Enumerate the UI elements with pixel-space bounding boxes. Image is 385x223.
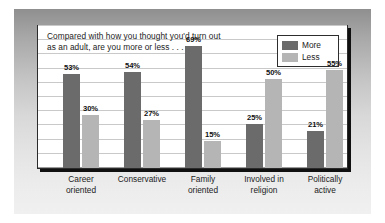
category-label: Politically active xyxy=(308,174,343,195)
bar-value-label: 54% xyxy=(125,61,140,70)
bar-less: 27% xyxy=(143,120,160,168)
bar-group: 25%50% xyxy=(246,26,282,168)
category-axis-labels: Career orientedConservativeFamily orient… xyxy=(37,174,351,204)
bars-group: 53%30%54%27%69%15%25%50%21%55% xyxy=(38,26,347,168)
bar-less: 50% xyxy=(265,79,282,168)
bar-group: 53%30% xyxy=(63,26,99,168)
chart-panel: Compared with how you thought you'd turn… xyxy=(37,25,348,169)
bar-more: 25% xyxy=(246,124,263,168)
bar-value-label: 30% xyxy=(83,104,98,113)
bar-value-label: 25% xyxy=(247,113,262,122)
bar-value-label: 53% xyxy=(64,63,79,72)
bar-group: 54%27% xyxy=(124,26,160,168)
bar-value-label: 21% xyxy=(308,120,323,129)
category-label: Career oriented xyxy=(66,174,96,195)
category-label: Family oriented xyxy=(188,174,218,195)
category-label: Conservative xyxy=(118,174,166,185)
bar-group: 21%55% xyxy=(307,26,343,168)
screenshot-root: Compared with how you thought you'd turn… xyxy=(0,0,385,223)
bar-less: 30% xyxy=(82,115,99,168)
bar-value-label: 15% xyxy=(205,130,220,139)
bar-less: 15% xyxy=(204,141,221,168)
bar-group: 69%15% xyxy=(185,26,221,168)
bar-value-label: 69% xyxy=(186,35,201,44)
bar-more: 53% xyxy=(63,74,80,168)
bar-value-label: 27% xyxy=(144,109,159,118)
bar-more: 21% xyxy=(307,131,324,168)
bar-more: 69% xyxy=(185,46,202,168)
bar-less: 55% xyxy=(326,70,343,168)
bar-value-label: 55% xyxy=(327,59,342,68)
bar-more: 54% xyxy=(124,72,141,168)
category-label: Involved in religion xyxy=(244,174,284,195)
bar-value-label: 50% xyxy=(266,68,281,77)
